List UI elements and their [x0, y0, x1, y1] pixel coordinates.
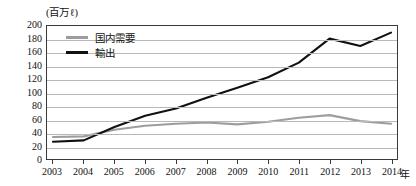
y-tick-label: 100	[6, 88, 42, 98]
legend: 国内需要 輸出	[66, 30, 176, 60]
y-tick-label: 20	[6, 142, 42, 152]
y-tick-label: 160	[6, 47, 42, 57]
x-tick-label: 2008	[197, 166, 217, 177]
y-tick-label: 60	[6, 115, 42, 125]
y-tick-label: 140	[6, 61, 42, 71]
x-tick-mark	[114, 160, 115, 164]
x-axis: 2003200420052006200720082009201020112012…	[46, 160, 398, 186]
x-tick-mark	[145, 160, 146, 164]
y-axis: 200180160140120100806040200	[6, 0, 42, 186]
x-tick-mark	[237, 160, 238, 164]
x-tick-mark	[361, 160, 362, 164]
x-tick-label: 2005	[104, 166, 124, 177]
legend-item-1: 輸出	[66, 45, 176, 60]
x-tick-label: 2004	[73, 166, 93, 177]
x-tick-label: 2013	[351, 166, 371, 177]
x-tick-mark	[330, 160, 331, 164]
gridline	[47, 134, 397, 135]
x-tick-label: 2014	[382, 166, 402, 177]
x-axis-unit-label: 年	[400, 166, 410, 181]
gridline	[47, 94, 397, 95]
legend-label-1: 輸出	[95, 45, 115, 60]
x-tick-label: 2010	[258, 166, 278, 177]
gridline	[47, 121, 397, 122]
x-tick-mark	[207, 160, 208, 164]
x-tick-mark	[299, 160, 300, 164]
x-tick-label: 2012	[320, 166, 340, 177]
x-tick-label: 2003	[42, 166, 62, 177]
x-tick-mark	[83, 160, 84, 164]
y-axis-unit-label: (百万ℓ)	[46, 4, 78, 19]
y-tick-label: 120	[6, 74, 42, 84]
y-tick-label: 180	[6, 34, 42, 44]
y-tick-label: 40	[6, 128, 42, 138]
y-tick-label: 0	[6, 155, 42, 165]
legend-swatch-line-icon	[66, 36, 88, 39]
legend-swatch-line-icon	[66, 51, 88, 54]
x-tick-mark	[52, 160, 53, 164]
x-tick-label: 2007	[166, 166, 186, 177]
chart-container: (百万ℓ) 200180160140120100806040200 200320…	[0, 0, 416, 186]
y-tick-label: 80	[6, 101, 42, 111]
legend-label-0: 国内需要	[95, 30, 135, 45]
x-tick-label: 2006	[135, 166, 155, 177]
y-tick-label: 200	[6, 20, 42, 30]
x-tick-mark	[268, 160, 269, 164]
x-tick-mark	[392, 160, 393, 164]
gridline	[47, 80, 397, 81]
gridline	[47, 67, 397, 68]
gridline	[47, 107, 397, 108]
x-tick-mark	[176, 160, 177, 164]
x-tick-label: 2011	[289, 166, 309, 177]
x-tick-label: 2009	[227, 166, 247, 177]
legend-item-0: 国内需要	[66, 30, 176, 45]
gridline	[47, 148, 397, 149]
